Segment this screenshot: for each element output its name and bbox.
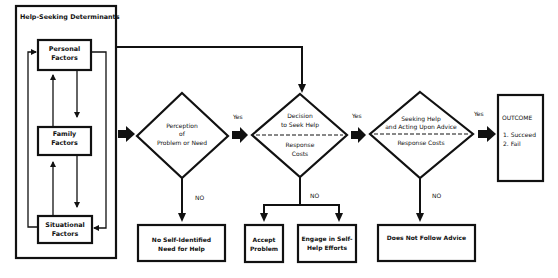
- arrowhead-down-icon: [178, 213, 186, 222]
- no-label-3: NO: [432, 192, 441, 199]
- outcome-title: OUTCOME: [502, 114, 533, 121]
- seeking-costs: Response Costs: [397, 139, 444, 147]
- personal-label-1: Personal: [49, 45, 80, 53]
- perception-line-2: of: [179, 130, 186, 137]
- seeking-line-1: Seeking Help: [401, 115, 441, 123]
- arrowhead-down-icon: [298, 84, 306, 93]
- determinants-group: Help-Seeking Determinants Personal Facto…: [16, 6, 120, 258]
- decision-costs-2: Costs: [292, 150, 308, 157]
- accept-line-1: Accept: [253, 236, 276, 244]
- no-need-line-2: Need for Help: [158, 245, 205, 253]
- perception-line-1: Perception: [166, 122, 198, 130]
- determinants-to-decision-line: [116, 47, 302, 85]
- arrowhead-down-icon: [416, 213, 424, 222]
- perception-line-3: Problem or Need: [157, 139, 207, 146]
- engage-line-2: Help Efforts: [307, 244, 347, 252]
- thick-arrow-right-icon: [232, 127, 248, 143]
- not-follow-line-1: Does Not Follow Advice: [387, 234, 466, 241]
- engage-self-help-box: Engage in Self- Help Efforts: [298, 225, 356, 262]
- outcome-item-1: 1. Succeed: [503, 131, 536, 138]
- thick-arrow-right-icon: [478, 126, 496, 142]
- thick-arrow-right-icon: [118, 126, 135, 142]
- decision-line-2: to Seek Help: [281, 121, 319, 129]
- no-branch-lines: [182, 177, 420, 214]
- accept-problem-box: Accept Problem: [245, 225, 283, 262]
- outcome-box: OUTCOME 1. Succeed 2. Fail: [498, 95, 543, 181]
- decision-costs-1: Response: [286, 141, 315, 149]
- situational-label-2: Factors: [52, 230, 79, 238]
- yes-label-1: Yes: [232, 113, 243, 120]
- no-need-line-1: No Self-Identified: [152, 236, 211, 243]
- does-not-follow-box: Does Not Follow Advice: [378, 225, 475, 261]
- no-label-1: NO: [195, 194, 204, 201]
- perception-diamond: Perception of Problem or Need: [137, 93, 228, 178]
- seeking-diamond: Seeking Help and Acting Upon Advice Resp…: [370, 92, 473, 178]
- decision-line-1: Decision: [287, 112, 313, 119]
- yes-label-2: Yes: [351, 112, 362, 119]
- accept-line-2: Problem: [250, 245, 278, 252]
- decision-diamond: Decision to Seek Help Response Costs: [252, 94, 347, 177]
- personal-label-2: Factors: [51, 54, 78, 62]
- seeking-line-2: and Acting Upon Advice: [385, 123, 457, 131]
- engage-line-1: Engage in Self-: [301, 235, 353, 243]
- outcome-item-2: 2. Fail: [503, 140, 521, 147]
- family-label-2: Factors: [51, 139, 78, 147]
- thick-arrow-right-icon: [351, 127, 366, 143]
- arrowhead-down-icon: [260, 213, 268, 222]
- no-label-2: NO: [310, 192, 319, 199]
- situational-label-1: Situational: [45, 221, 84, 229]
- yes-label-3: Yes: [473, 110, 484, 117]
- determinants-title: Help-Seeking Determinants: [20, 13, 120, 21]
- arrowhead-down-icon: [335, 213, 343, 222]
- family-label-1: Family: [53, 130, 77, 138]
- no-need-box: No Self-Identified Need for Help: [138, 225, 225, 261]
- help-seeking-flow-diagram: Help-Seeking Determinants Personal Facto…: [0, 0, 558, 278]
